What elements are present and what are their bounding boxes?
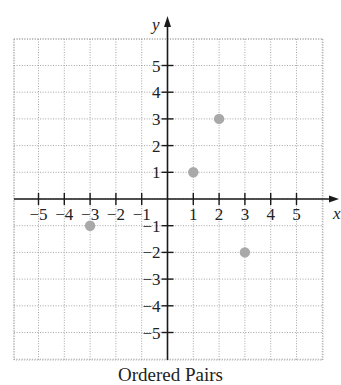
x-tick-label: −2 [107,205,125,224]
data-point [85,221,95,231]
chart-caption: Ordered Pairs [0,364,341,385]
data-point [188,167,198,177]
data-point [214,114,224,124]
y-tick-label: −1 [142,217,160,236]
x-axis-arrow-icon [329,196,339,203]
x-tick-label: 5 [292,205,301,224]
y-tick-label: 1 [152,163,161,182]
y-tick-label: 3 [152,110,161,129]
y-tick-label: −3 [142,270,160,289]
x-tick-label: 2 [215,205,224,224]
x-axis-label: x [332,204,341,223]
x-tick-label: 1 [189,205,198,224]
coordinate-plane: −5−4−3−2−112345 54321−1−2−3−4−5 x y [0,0,341,385]
y-tick-label: 5 [152,57,161,76]
y-tick-label: 4 [152,83,161,102]
y-axis-label: y [150,15,160,34]
axes [14,16,339,360]
y-axis-arrow-icon [164,16,171,27]
y-tick-label: −2 [142,243,160,262]
y-tick-label: −4 [142,297,161,316]
x-tick-label: 3 [241,205,250,224]
x-axis-ticks: −5−4−3−2−112345 [29,193,300,224]
y-tick-label: −5 [142,324,160,343]
x-tick-label: −4 [55,205,74,224]
x-tick-label: 4 [266,205,275,224]
data-point [240,247,250,257]
x-tick-label: −5 [29,205,47,224]
y-tick-label: 2 [152,137,161,156]
